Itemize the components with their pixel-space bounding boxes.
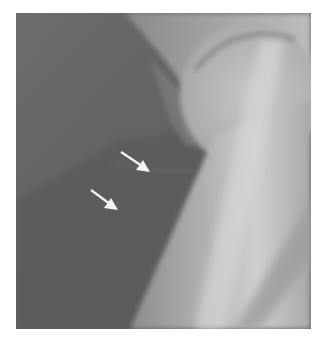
radiograph-svg	[16, 13, 311, 329]
radiograph-image	[16, 13, 311, 329]
